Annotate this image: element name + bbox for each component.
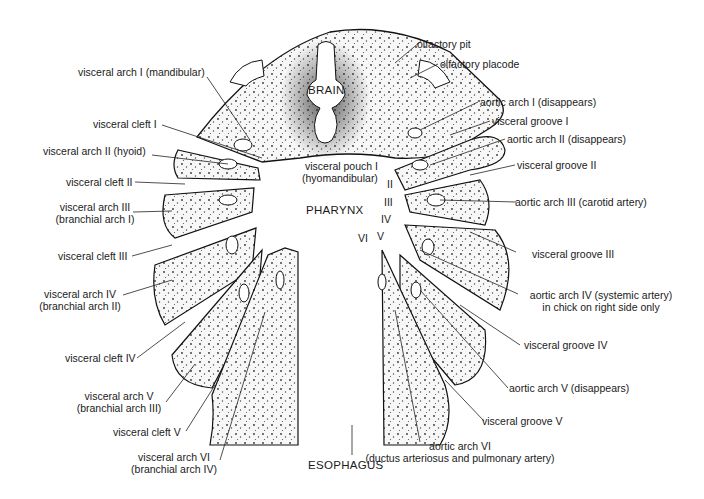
aortic-arch-6-label: aortic arch VI (ductus arteriosus and pu… xyxy=(355,440,565,464)
visceral-arch-2-label: visceral arch II (hyoid) xyxy=(43,145,146,157)
olfactory-pit-label: olfactory pit xyxy=(417,38,471,50)
aortic-arch-5-label: aortic arch V (disappears) xyxy=(509,382,629,394)
visceral-cleft-2-label: visceral cleft II xyxy=(66,176,133,188)
pouch-4-label: IV xyxy=(381,213,391,225)
visceral-arch-5-label: visceral arch V (branchial arch III) xyxy=(73,390,165,414)
visceral-groove-1-label: visceral groove I xyxy=(492,115,568,127)
visceral-cleft-5-label: visceral cleft V xyxy=(113,426,181,438)
visceral-cleft-1-label: visceral cleft I xyxy=(93,118,157,130)
visceral-groove-5-label: visceral groove V xyxy=(482,415,563,427)
pouch-2-label: II xyxy=(387,178,393,190)
pharyngeal-arches-diagram: BRAIN PHARYNX ESOPHAGUS visceral pouch I… xyxy=(0,0,704,499)
visceral-groove-3-label: visceral groove III xyxy=(532,248,614,260)
visceral-pouch-1-label: visceral pouch I xyxy=(305,160,378,172)
visceral-groove-4-label: visceral groove IV xyxy=(524,339,607,351)
visceral-cleft-3-label: visceral cleft III xyxy=(58,250,127,262)
visceral-arch-4-label: visceral arch IV (branchial arch II) xyxy=(37,288,123,312)
visceral-cleft-4-label: visceral cleft IV xyxy=(65,352,136,364)
visceral-groove-2-label: visceral groove II xyxy=(517,159,596,171)
pharynx-label: PHARYNX xyxy=(306,204,364,216)
brain-label: BRAIN xyxy=(308,84,345,96)
pouch-5-label: V xyxy=(377,230,384,242)
visceral-arch-1-label: visceral arch I (mandibular) xyxy=(78,66,205,78)
visceral-arch-6-label: visceral arch VI (branchial arch IV) xyxy=(128,451,220,475)
olfactory-placode-label: olfactory placode xyxy=(440,58,519,70)
visceral-arch-3-label: visceral arch III (branchial arch I) xyxy=(55,201,135,225)
pouch-6-label: VI xyxy=(358,232,368,244)
aortic-arch-4-label: aortic arch IV (systemic artery) in chic… xyxy=(516,289,686,313)
right-arches xyxy=(378,137,509,445)
visceral-pouch-1-sublabel: (hyomandibular) xyxy=(302,172,378,184)
aortic-arch-3-label: aortic arch III (carotid artery) xyxy=(515,196,647,208)
aortic-arch-1-label: aortic arch I (disappears) xyxy=(480,96,596,108)
left-arches xyxy=(154,150,298,445)
aortic-arch-2-label: aortic arch II (disappears) xyxy=(507,133,626,145)
pouch-3-label: III xyxy=(384,196,393,208)
